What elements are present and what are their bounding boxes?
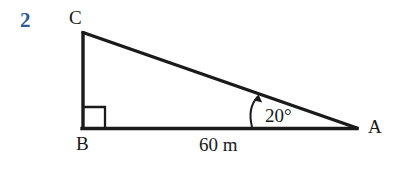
vertex-label-a: A <box>368 117 382 136</box>
question-number: 2 <box>20 10 31 31</box>
triangle-diagram <box>0 0 402 185</box>
right-angle-marker <box>83 107 105 128</box>
figure-canvas: 2 C B A 20° 60 m <box>0 0 402 185</box>
triangle-side-ca <box>83 33 357 129</box>
side-length-label-ba: 60 m <box>199 135 238 154</box>
vertex-label-c: C <box>69 8 82 27</box>
angle-arrow-shaft <box>251 97 258 127</box>
angle-label-20-degrees: 20° <box>265 106 292 125</box>
vertex-label-b: B <box>76 134 89 153</box>
